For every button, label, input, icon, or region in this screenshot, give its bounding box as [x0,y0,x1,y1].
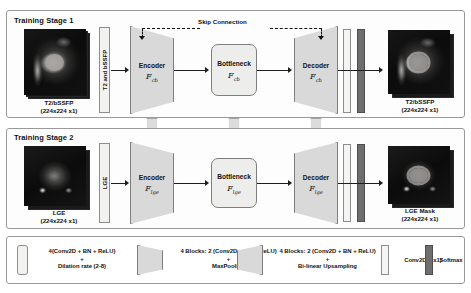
stage2-input-caption: LGE (224x224 x1) [14,209,104,225]
stage1-bottleneck-label: Bottleneck [211,60,257,67]
stage2-bottleneck-symbol-sub: lge [233,189,241,195]
arrow-line-s1-d [338,70,381,71]
stage1-bottleneck-symbol: Fcb [211,71,257,82]
arrow-head-s2-b [205,180,209,186]
stage1-decoder-symbol: Fcb [294,72,338,83]
legend-label-2-line3: Bi-linear Upsampling [298,263,357,269]
stage2-output-name: LGE Mask [405,207,435,214]
stage1-decoder-symbol-sub: cb [316,77,322,83]
stage2-decoder-label: Decoder [294,174,338,181]
legend-label-0-line2: + [80,256,83,262]
stage1-encoder-symbol-sub: cb [152,77,158,83]
stage1-input-image [24,29,86,95]
skip-connection-arrow-left [139,36,145,40]
legend-label-4-line1: Softmax [439,257,462,263]
stage2-output-dims: (224x224 x1) [402,215,439,222]
legend-label-1-line2: + [227,256,230,262]
stage1-input-caption: T2/bSSFP (224x224 x1) [14,99,104,115]
stage2-title: Training Stage 2 [14,133,74,142]
mri-layer-front [388,30,450,94]
mri-segmentation-overlay [409,168,428,183]
stage1-input-dims: (224x224 x1) [41,107,78,114]
legend-shape-conv1x1 [381,245,389,275]
stage1-bottleneck-symbol-sub: cb [234,76,240,82]
stage1-decoder-label: Decoder [294,62,338,69]
arrow-line-s2-a [111,183,126,184]
legend-label-4: Softmax [434,256,468,264]
stage2-bottleneck-symbol: Flge [211,184,257,195]
stage2-decoder-block [294,142,338,224]
stage2-input-name: LGE [53,209,66,216]
stage2-encoder-label: Encoder [130,174,174,181]
arrow-head-s2-a [125,180,129,186]
stage1-conv1x1-bar [343,29,351,113]
arrow-line-s1-a [111,70,126,71]
arrow-head-s2-c [288,180,292,186]
mri-myocardium-ring [45,54,64,71]
legend-label-0-line3: Dilation rate (2-8) [58,263,106,269]
stage1-encoder-symbol: Fcb [130,72,174,83]
figure-root: Training Stage 1 T2/bSSFP (224x224 x1) T… [0,0,471,293]
arrow-head-s1-c [288,67,292,73]
stage2-input-dims: (224x224 x1) [41,217,78,224]
stage2-output-caption: LGE Mask (224x224 x1) [378,207,462,223]
stage1-bottleneck-block [211,44,257,96]
mri-layer-front [388,146,450,204]
stage1-decoder-block [294,26,338,114]
stage2-input-image [24,146,86,206]
legend-shape-slab [17,245,28,275]
stage1-softmax-bar [357,29,365,113]
stage2-output-image [388,146,450,204]
stage2-encoder-symbol: Flge [130,184,174,195]
stage2-encoder-symbol-sub: lge [151,189,159,195]
legend-label-0-line1: 4(Conv2D + BN + ReLU) [49,248,116,254]
stage2-input-slab-label: LGE [102,163,108,204]
skip-connection-label: Skip Connection [198,18,247,25]
stage2-encoder-block [130,142,174,224]
stage1-output-caption: T2/bSSFP (224x224 x1) [378,98,462,114]
mri-layer-front [24,146,86,206]
legend-shape-softmax [425,245,433,275]
arrow-line-s2-d [338,183,381,184]
legend-label-0: 4(Conv2D + BN + ReLU) + Dilation rate (2… [32,248,132,271]
arrow-line-s2-b [174,183,207,184]
stage1-title: Training Stage 1 [14,16,74,25]
stage1-output-dims: (224x224 x1) [402,106,439,113]
stage1-output-name: T2/bSSFP [406,98,435,105]
arrow-head-s1-d [379,67,383,73]
arrow-head-s1-a [125,67,129,73]
mri-layer-front [24,29,86,95]
stage2-bottleneck-label: Bottleneck [211,173,257,180]
stage1-encoder-label: Encoder [130,62,174,69]
legend-label-2: 4 Blocks: 2 (Conv2D + BN + ReLU) + Bi-li… [265,248,390,271]
arrow-head-s2-d [379,180,383,186]
stage2-decoder-symbol-sub: lge [315,189,323,195]
skip-connection-line-left [142,28,200,29]
stage1-input-name: T2/bSSFP [45,99,74,106]
mri-texture [24,146,86,206]
skip-connection-line-right [270,28,322,29]
stage2-decoder-symbol: Flge [294,184,338,195]
arrow-line-s2-c [257,183,290,184]
legend-label-2-line1: 4 Blocks: 2 (Conv2D + BN + ReLU) [279,248,375,254]
legend-label-2-line2: + [326,256,329,262]
skip-connection-arrow-right [318,36,324,40]
stage1-input-slab-label: T2 and bSSFP [102,44,108,97]
stage1-output-image [388,30,450,94]
mri-segmentation-overlay [409,54,428,71]
stage1-encoder-block [130,26,174,114]
arrow-line-s1-c [257,70,290,71]
arrow-head-s1-b [205,67,209,73]
arrow-line-s1-b [174,70,207,71]
stage2-bottleneck-block [211,158,257,208]
